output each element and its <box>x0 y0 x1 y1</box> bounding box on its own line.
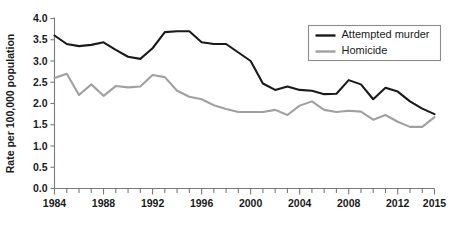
x-tick-label: 1984 <box>43 197 67 209</box>
y-tick-label: 1.0 <box>33 140 48 152</box>
y-tick-label: 2.5 <box>33 76 48 88</box>
x-tick-label: 2000 <box>239 197 263 209</box>
x-axis: 198419881992199620002004200820122015 <box>43 189 447 209</box>
x-tick-label: 1988 <box>92 197 116 209</box>
y-tick-label: 2.0 <box>33 97 48 109</box>
y-tick-label: 1.5 <box>33 118 48 130</box>
x-tick-label: 2012 <box>386 197 410 209</box>
chart-canvas: 0.00.51.01.52.02.53.03.54.0 198419881992… <box>0 0 452 231</box>
legend-label: Attempted murder <box>342 28 430 40</box>
x-tick-label: 2004 <box>288 197 312 209</box>
y-tick-label: 4.0 <box>33 12 48 24</box>
x-tick-label: 1996 <box>190 197 214 209</box>
legend-label: Homicide <box>342 44 388 56</box>
y-tick-label: 0.5 <box>33 161 48 173</box>
x-tick-label: 2015 <box>423 197 447 209</box>
series-line-homicide <box>55 74 435 127</box>
y-axis: 0.00.51.01.52.02.53.03.54.0 <box>33 12 55 194</box>
y-tick-label: 0.0 <box>33 182 48 194</box>
y-tick-label: 3.0 <box>33 55 48 67</box>
y-tick-label: 3.5 <box>33 33 48 45</box>
x-tick-label: 1992 <box>141 197 165 209</box>
x-tick-label: 2008 <box>337 197 361 209</box>
chart-legend: Attempted murderHomicide <box>309 26 441 61</box>
line-chart: 0.00.51.01.52.02.53.03.54.0 198419881992… <box>0 0 452 231</box>
y-axis-title: Rate per 100,000 population <box>4 34 16 173</box>
